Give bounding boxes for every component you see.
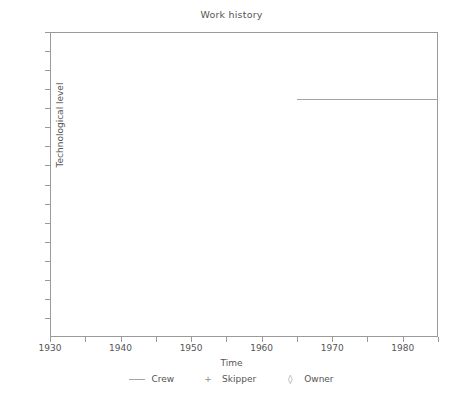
series-line-crew [297,99,438,100]
legend-item-owner[interactable]: ◊Owner [282,374,333,384]
y-axis-tick [45,318,50,319]
y-axis-tick [45,32,50,33]
y-axis-tick [45,89,50,90]
y-axis-tick [45,204,50,205]
y-axis-tick [45,70,50,71]
legend-item-crew[interactable]: Crew [129,374,174,384]
chart-legend: Crew+Skipper◊Owner [0,374,463,384]
y-axis-tick [45,299,50,300]
y-axis-tick [45,280,50,281]
x-axis-tick [332,337,333,342]
work-history-chart: Work history 193019401950196019701980 Ti… [0,0,463,408]
legend-label: Skipper [222,374,256,384]
y-axis-tick [45,127,50,128]
y-axis-tick [45,223,50,224]
y-axis-tick [45,51,50,52]
chart-title: Work history [0,9,463,20]
x-axis-tick-label: 1970 [321,343,344,353]
x-axis-tick [156,337,157,342]
x-axis-tick-label: 1930 [39,343,62,353]
x-axis-tick [403,337,404,342]
x-axis-tick [297,337,298,342]
y-axis-title: Technological level [55,55,65,195]
legend-marker-diamond-icon: ◊ [282,375,298,384]
x-axis-tick-label: 1950 [180,343,203,353]
x-axis-tick-label: 1940 [109,343,132,353]
y-axis-tick [45,146,50,147]
legend-marker-line-icon [129,379,145,380]
x-axis-tick [121,337,122,342]
x-axis-tick [226,337,227,342]
y-axis-tick [45,185,50,186]
x-axis-tick [367,337,368,342]
x-axis-title: Time [0,358,463,368]
x-axis-tick-label: 1960 [250,343,273,353]
plot-area [50,32,438,337]
x-axis-tick [85,337,86,342]
x-axis-tick-label: 1980 [391,343,414,353]
x-axis-tick [191,337,192,342]
x-axis-tick [50,337,51,342]
legend-label: Crew [151,374,174,384]
x-axis-tick [438,337,439,342]
y-axis-tick [45,165,50,166]
y-axis-tick [45,108,50,109]
y-axis-tick [45,242,50,243]
x-axis-tick [262,337,263,342]
legend-label: Owner [304,374,333,384]
legend-marker-plus-icon: + [200,375,216,384]
y-axis-tick [45,261,50,262]
legend-item-skipper[interactable]: +Skipper [200,374,256,384]
